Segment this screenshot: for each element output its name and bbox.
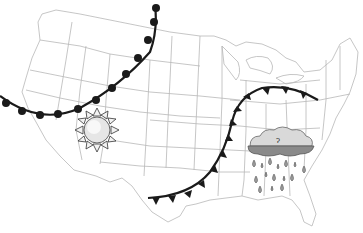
weather-map: ʔ xyxy=(0,0,363,233)
sun-icon xyxy=(75,108,119,152)
us-map-svg: ʔ xyxy=(0,0,363,233)
svg-text:ʔ: ʔ xyxy=(276,136,280,145)
